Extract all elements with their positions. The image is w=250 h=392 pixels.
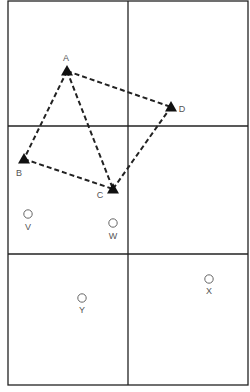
dashed-edge-a-b	[24, 71, 67, 159]
circle-point-x: X	[205, 275, 213, 296]
triangle-point-b: B	[16, 153, 30, 178]
triangle-icon	[61, 65, 73, 76]
point-label: A	[63, 53, 69, 63]
circle-icon	[24, 210, 32, 218]
point-label: V	[25, 222, 31, 232]
point-label: B	[16, 168, 22, 178]
dashed-edge-a-c	[67, 71, 113, 189]
point-label: C	[97, 190, 104, 200]
point-label: X	[206, 286, 212, 296]
circle-markers: VWXY	[24, 210, 213, 315]
circle-point-y: Y	[78, 294, 86, 315]
circle-point-v: V	[24, 210, 32, 232]
point-label: D	[179, 104, 186, 114]
grid	[8, 1, 248, 385]
circle-point-w: W	[109, 219, 118, 241]
dashed-edge-c-d	[113, 107, 171, 189]
triangle-icon	[18, 153, 30, 164]
circle-icon	[109, 219, 117, 227]
dashed-edge-b-c	[24, 159, 113, 189]
dashed-edges	[24, 71, 171, 189]
dashed-edge-a-d	[67, 71, 171, 107]
grid-diagram: ABCD VWXY	[0, 0, 250, 392]
circle-icon	[78, 294, 86, 302]
circle-icon	[205, 275, 213, 283]
point-label: Y	[79, 305, 85, 315]
point-label: W	[109, 231, 118, 241]
triangle-point-d: D	[165, 101, 186, 114]
